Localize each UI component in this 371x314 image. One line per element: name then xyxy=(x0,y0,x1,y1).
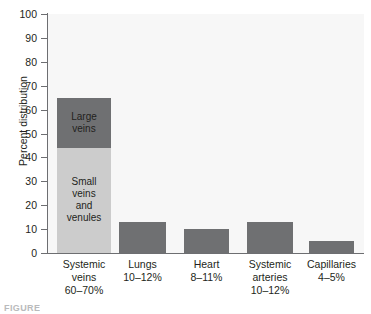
bar-segment-systemic-veins-0: Large veins xyxy=(57,98,111,148)
y-tick-50 xyxy=(41,134,48,135)
y-tick-0 xyxy=(41,253,48,254)
y-tick-100 xyxy=(41,14,48,15)
y-tick-label-10: 10 xyxy=(0,224,37,235)
x-axis-line xyxy=(47,253,364,254)
y-tick-label-0: 0 xyxy=(0,248,37,259)
category-label-lungs: Lungs 10–12% xyxy=(105,258,180,284)
y-tick-80 xyxy=(41,62,48,63)
bar-segment-lungs-0 xyxy=(119,222,166,253)
y-tick-20 xyxy=(41,205,48,206)
category-label-capillaries: Capillaries 4–5% xyxy=(295,258,368,284)
figure-container: 1009080706050403020100 Percent distribut… xyxy=(0,0,371,314)
bar-segment-systemic-arteries-0 xyxy=(247,222,293,253)
y-tick-30 xyxy=(41,181,48,182)
y-tick-label-90: 90 xyxy=(0,33,37,44)
y-tick-label-20: 20 xyxy=(0,200,37,211)
y-tick-label-100: 100 xyxy=(0,9,37,20)
bar-systemic-arteries xyxy=(247,14,293,253)
bar-lungs xyxy=(119,14,166,253)
bar-segment-systemic-veins-1: Small veins and venules xyxy=(57,148,111,253)
y-axis-title: Percent distribution xyxy=(17,46,29,196)
bar-segment-capillaries-0 xyxy=(309,241,354,253)
bar-heart xyxy=(184,14,229,253)
bar-capillaries xyxy=(309,14,354,253)
y-tick-10 xyxy=(41,229,48,230)
y-tick-60 xyxy=(41,110,48,111)
bar-systemic-veins: Large veinsSmall veins and venules xyxy=(57,14,111,253)
figure-caption: FIGURE xyxy=(4,303,40,314)
y-tick-40 xyxy=(41,157,48,158)
bar-segment-heart-0 xyxy=(184,229,229,253)
y-tick-90 xyxy=(41,38,48,39)
y-tick-70 xyxy=(41,86,48,87)
